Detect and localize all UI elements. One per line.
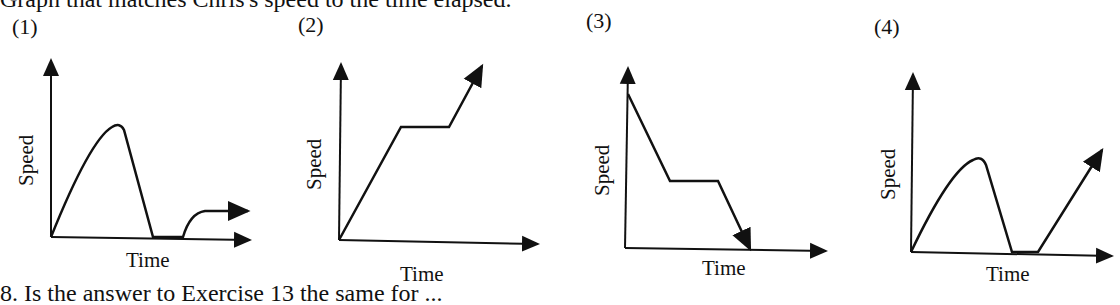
graph-2-ylabel: Speed [302, 139, 327, 190]
question-text: Graph that matches Chris's speed to the … [0, 0, 512, 13]
graph-4-xlabel: Time [986, 262, 1030, 287]
graph-3-ylabel: Speed [590, 145, 615, 196]
graph-4-ylabel: Speed [876, 149, 901, 200]
graph-1-ylabel: Speed [14, 135, 39, 186]
graph-1 [0, 30, 280, 270]
graph-1-xlabel: Time [126, 248, 170, 273]
graph-3-xlabel: Time [702, 256, 746, 281]
next-question-text: 8. Is the answer to Exercise 13 the same… [0, 280, 443, 305]
